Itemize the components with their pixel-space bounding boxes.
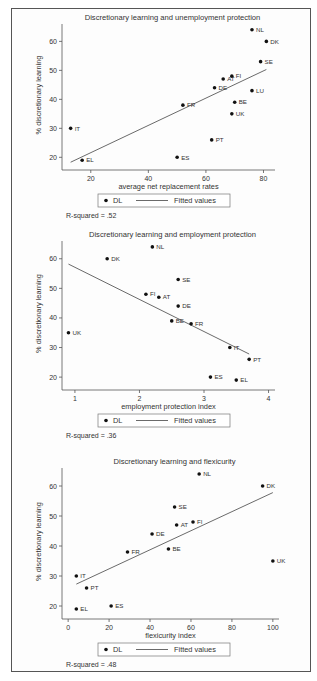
- point-marker-icon: [176, 304, 180, 308]
- x-tick-label: 20: [87, 175, 95, 182]
- point-label: SE: [265, 58, 273, 65]
- data-point-se: SE: [173, 503, 187, 510]
- legend: DLFitted values: [98, 414, 230, 427]
- data-point-dk: DK: [261, 482, 276, 489]
- y-tick-label: 40: [49, 543, 57, 550]
- point-label: IT: [75, 125, 81, 132]
- point-label: FR: [187, 101, 196, 108]
- chart-title: Discretionary learning and employment pr…: [89, 230, 256, 239]
- chart-panel-unemployment-protection: Discretionary learning and unemployment …: [0, 0, 317, 225]
- point-marker-icon: [126, 550, 130, 554]
- point-label: AT: [227, 75, 235, 82]
- point-marker-icon: [265, 40, 269, 44]
- data-point-fi: FI: [191, 518, 203, 525]
- data-point-es: ES: [209, 373, 223, 380]
- y-axis-label: % discretionary learning: [34, 56, 43, 135]
- data-point-de: DE: [150, 530, 164, 537]
- data-point-el: EL: [80, 156, 94, 163]
- point-label: FR: [132, 548, 141, 555]
- point-label: ES: [115, 602, 123, 609]
- legend-fitted-label: Fitted values: [174, 645, 216, 654]
- data-point-lu: LU: [250, 87, 264, 94]
- point-label: PT: [216, 136, 224, 143]
- point-marker-icon: [67, 331, 71, 335]
- y-tick-label: 20: [49, 374, 57, 381]
- r-squared-note: R-squared = .48: [66, 661, 116, 669]
- data-point-fr: FR: [126, 548, 141, 555]
- y-tick-label: 40: [49, 314, 57, 321]
- data-point-nl: NL: [250, 26, 264, 33]
- data-point-at: AT: [175, 521, 188, 528]
- point-label: DE: [156, 530, 165, 537]
- r-squared-note: R-squared = .36: [66, 432, 116, 440]
- point-marker-icon: [176, 278, 180, 282]
- x-tick-label: 2: [138, 395, 142, 402]
- point-label: AT: [163, 293, 171, 300]
- x-axis-label: flexicurity index: [145, 631, 196, 640]
- data-point-se: SE: [176, 276, 190, 283]
- legend-dl-label: DL: [113, 196, 122, 205]
- point-marker-icon: [250, 28, 254, 32]
- x-tick-label: 100: [267, 624, 279, 631]
- x-tick-label: 1: [73, 395, 77, 402]
- point-marker-icon: [151, 245, 155, 249]
- data-point-fi: FI: [144, 290, 156, 297]
- point-label: UK: [72, 329, 81, 336]
- point-marker-icon: [150, 532, 154, 536]
- data-point-uk: UK: [67, 329, 82, 336]
- legend-fitted-label: Fitted values: [174, 196, 216, 205]
- point-label: LU: [256, 87, 264, 94]
- point-marker-icon: [191, 520, 195, 524]
- point-label: SE: [182, 276, 190, 283]
- data-point-fr: FR: [189, 320, 204, 327]
- data-point-nl: NL: [151, 243, 165, 250]
- point-marker-icon: [221, 77, 225, 81]
- y-tick-label: 20: [49, 603, 57, 610]
- data-point-be: BE: [170, 317, 184, 324]
- point-marker-icon: [144, 292, 148, 296]
- legend: DLFitted values: [98, 643, 230, 656]
- x-tick-label: 80: [228, 624, 236, 631]
- chart-title: Discretionary learning and flexicurity: [114, 457, 236, 466]
- point-label: UK: [277, 557, 286, 564]
- point-marker-icon: [175, 156, 179, 160]
- point-label: BE: [172, 545, 180, 552]
- legend: DLFitted values: [98, 194, 230, 207]
- point-label: BE: [176, 317, 184, 324]
- scatter-chart: Discretionary learning and flexicurity20…: [0, 450, 317, 675]
- point-marker-icon: [109, 604, 113, 608]
- point-label: IT: [234, 344, 240, 351]
- point-label: ES: [181, 154, 189, 161]
- point-marker-icon: [233, 100, 237, 104]
- point-label: PT: [253, 356, 261, 363]
- point-marker-icon: [105, 257, 109, 261]
- point-label: DE: [219, 84, 228, 91]
- data-point-de: DE: [176, 302, 190, 309]
- data-point-es: ES: [109, 602, 123, 609]
- point-marker-icon: [170, 319, 174, 323]
- point-label: EL: [80, 605, 88, 612]
- y-tick-label: 30: [49, 573, 57, 580]
- data-point-be: BE: [233, 98, 247, 105]
- chart-title: Discretionary learning and unemployment …: [85, 13, 261, 22]
- data-point-it: IT: [69, 125, 81, 132]
- y-tick-label: 40: [49, 96, 57, 103]
- point-marker-icon: [85, 586, 89, 590]
- x-tick-label: 40: [144, 175, 152, 182]
- y-tick-label: 20: [49, 154, 57, 161]
- y-tick-label: 60: [49, 38, 57, 45]
- point-marker-icon: [261, 484, 265, 488]
- point-label: BE: [239, 98, 247, 105]
- point-label: SE: [179, 503, 187, 510]
- point-label: DK: [267, 482, 276, 489]
- data-point-dk: DK: [265, 38, 280, 45]
- point-marker-icon: [259, 60, 263, 64]
- data-point-pt: PT: [210, 136, 224, 143]
- point-marker-icon: [189, 322, 193, 326]
- point-label: DK: [111, 255, 120, 262]
- y-tick-label: 50: [49, 67, 57, 74]
- data-point-it: IT: [75, 572, 87, 579]
- data-point-nl: NL: [197, 470, 211, 477]
- point-marker-icon: [157, 295, 161, 299]
- point-marker-icon: [271, 559, 275, 563]
